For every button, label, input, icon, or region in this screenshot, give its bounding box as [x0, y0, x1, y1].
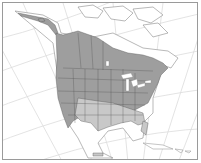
range-map [2, 2, 198, 160]
map-canvas [3, 3, 198, 160]
